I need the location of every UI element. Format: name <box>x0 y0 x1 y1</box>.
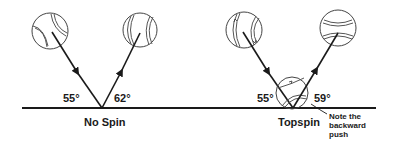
note-line-2: backward <box>329 121 366 130</box>
topspin-contact-ball-icon <box>276 77 308 109</box>
no-spin-incoming-angle: 55° <box>63 92 80 104</box>
topspin-caption: Topspin <box>278 116 320 128</box>
topspin-incoming-ball-icon <box>226 12 262 48</box>
note-line-3: push <box>329 130 366 139</box>
no-spin-caption: No Spin <box>84 116 126 128</box>
topspin-outgoing-ball-icon <box>320 10 356 46</box>
no-spin-outgoing-angle: 62° <box>114 92 131 104</box>
note-line-1: Note the <box>329 112 366 121</box>
no-spin-incoming-path-segment <box>77 72 102 108</box>
topspin-incoming-angle: 55° <box>257 92 274 104</box>
no-spin-outgoing-ball-icon <box>123 13 157 47</box>
backward-push-note: Note the backward push <box>329 112 366 139</box>
no-spin-incoming-ball-icon <box>32 13 68 49</box>
topspin-outgoing-angle: 59° <box>314 92 331 104</box>
